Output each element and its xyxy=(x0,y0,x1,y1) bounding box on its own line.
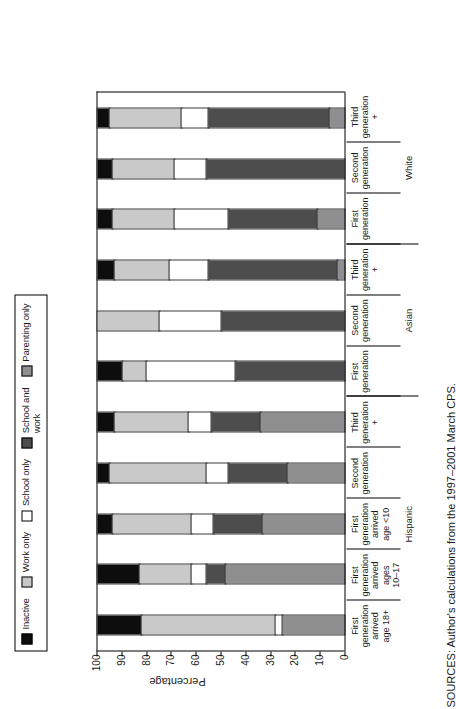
category-label: First generation xyxy=(346,346,369,397)
y-axis-tick-mark xyxy=(170,651,171,656)
chart-legend: InactiveWork onlySchool onlySchool and w… xyxy=(14,294,47,651)
bar-segment-schoolwork xyxy=(228,463,287,482)
bar-segment-work xyxy=(109,108,181,127)
bar-segment-school xyxy=(206,463,228,482)
group-divider xyxy=(346,243,418,244)
bar-segment-work xyxy=(109,463,205,482)
bar-segment-parenting xyxy=(317,209,344,228)
category-label: Third generation + xyxy=(346,396,380,447)
stacked-bar xyxy=(97,564,344,583)
bar-segment-school xyxy=(169,260,209,279)
stacked-bar xyxy=(97,209,344,228)
bar-segment-inactive xyxy=(97,209,112,228)
stacked-bar xyxy=(97,108,344,127)
plot-area xyxy=(96,91,344,651)
bar-segment-schoolwork xyxy=(208,108,329,127)
bar-segment-parenting xyxy=(282,615,344,634)
stacked-bar xyxy=(97,159,344,178)
legend-swatch-school-only xyxy=(21,510,32,521)
category-divider xyxy=(346,294,400,295)
bar-segment-school xyxy=(174,159,206,178)
legend-swatch-inactive xyxy=(21,633,32,644)
category-divider xyxy=(346,446,400,447)
category-divider xyxy=(346,497,400,498)
bar-column xyxy=(97,295,344,346)
category-label: Third generation + xyxy=(346,91,380,142)
stacked-bar xyxy=(97,412,344,431)
bar-segment-inactive xyxy=(97,260,114,279)
bar-column xyxy=(97,193,344,244)
bar-segment-schoolwork xyxy=(206,159,344,178)
bar-column xyxy=(97,396,344,447)
bar-segment-parenting xyxy=(337,260,344,279)
y-axis-tick-mark xyxy=(344,651,345,656)
category-divider xyxy=(346,345,400,346)
bar-segment-work xyxy=(112,159,174,178)
source-note: SOURCES: Author's calculations from the … xyxy=(444,383,456,707)
bar-segment-parenting xyxy=(329,108,344,127)
group-divider xyxy=(346,395,418,396)
bar-segment-school xyxy=(191,514,213,533)
bar-segment-schoolwork xyxy=(208,260,336,279)
category-label: Second generation xyxy=(346,295,369,346)
y-axis-tick-label: 100 xyxy=(91,654,101,671)
bar-column xyxy=(97,599,344,650)
y-axis-tick-mark xyxy=(245,651,246,656)
category-divider xyxy=(346,599,400,600)
bar-segment-schoolwork xyxy=(221,311,345,330)
bar-segment-parenting xyxy=(287,463,344,482)
bar-column xyxy=(97,244,344,295)
bar-segment-inactive xyxy=(97,564,139,583)
bar-column xyxy=(97,447,344,498)
bar-column xyxy=(97,92,344,143)
bar-segment-schoolwork xyxy=(206,564,226,583)
bar-segment-schoolwork xyxy=(235,361,344,380)
y-axis-tick-mark xyxy=(146,651,147,656)
bar-segment-work xyxy=(114,412,188,431)
y-axis-tick-mark xyxy=(121,651,122,656)
y-axis-tick-mark xyxy=(294,651,295,656)
y-axis-tick-mark xyxy=(270,651,271,656)
legend-swatch-parenting-only xyxy=(21,365,32,376)
stacked-bar xyxy=(97,361,344,380)
bar-segment-school xyxy=(275,615,282,634)
group-label: Asian xyxy=(402,244,413,397)
bar-segment-work xyxy=(139,564,191,583)
y-axis-tick-mark xyxy=(220,651,221,656)
legend-item: Work only xyxy=(20,532,32,587)
bar-segment-parenting xyxy=(260,412,344,431)
bar-column xyxy=(97,143,344,194)
category-label: Second generation xyxy=(346,447,369,498)
y-axis-tick-mark xyxy=(195,651,196,656)
bar-segment-school xyxy=(174,209,228,228)
bar-segment-schoolwork xyxy=(211,412,260,431)
legend-swatch-school-and-work xyxy=(21,437,32,448)
bar-segment-work xyxy=(97,311,159,330)
category-label: First generation arrived age <10 xyxy=(346,498,390,549)
bar-column xyxy=(97,549,344,600)
group-label: White xyxy=(402,91,413,244)
bar-segment-school xyxy=(181,108,208,127)
legend-item: School and work xyxy=(20,387,41,448)
bar-segment-schoolwork xyxy=(213,514,262,533)
category-divider xyxy=(346,141,400,142)
bar-segment-inactive xyxy=(97,412,114,431)
stacked-bar xyxy=(97,514,344,533)
bar-column xyxy=(97,498,344,549)
axis-baseline xyxy=(344,91,345,651)
category-label: Second generation xyxy=(346,142,369,193)
bar-segment-work xyxy=(112,514,191,533)
stacked-bar xyxy=(97,311,344,330)
legend-swatch-work-only xyxy=(21,576,32,587)
bars-container xyxy=(97,92,344,650)
legend-item-label: Parenting only xyxy=(20,303,31,361)
stacked-bar xyxy=(97,615,344,634)
legend-item: Parenting only xyxy=(20,303,32,376)
bar-column xyxy=(97,346,344,397)
bar-segment-school xyxy=(188,412,210,431)
bar-segment-inactive xyxy=(97,615,141,634)
y-axis-label: Percentage xyxy=(87,675,267,687)
bar-segment-school xyxy=(191,564,206,583)
